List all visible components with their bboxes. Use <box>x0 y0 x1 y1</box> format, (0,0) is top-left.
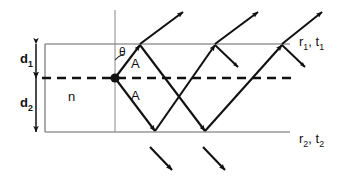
ray-internal-up-1 <box>155 45 215 131</box>
ray-exit-below-1 <box>150 147 172 170</box>
label-amplitude-upper: A <box>131 57 140 70</box>
ray-source-down-right <box>115 78 155 131</box>
figure-canvas: d1 d2 n θ A A r1, t1 r2, t2 <box>0 0 343 178</box>
label-top-interface-coefficients: r1, t1 <box>299 35 324 51</box>
source-point-dot <box>110 73 119 82</box>
label-bottom-interface-coefficients: r2, t2 <box>299 132 324 148</box>
label-d1: d1 <box>20 52 33 68</box>
label-d2: d2 <box>20 96 33 112</box>
label-amplitude-lower: A <box>131 89 140 102</box>
ray-transmitted-up-1 <box>140 12 183 44</box>
ray-reflected-down-1 <box>215 45 238 67</box>
label-theta-angle: θ <box>119 46 126 58</box>
label-refractive-index: n <box>68 90 75 103</box>
ray-exit-below-2 <box>203 147 225 170</box>
ray-internal-up-2 <box>205 45 282 131</box>
ray-diagram-svg <box>0 0 343 178</box>
ray-internal-down-1 <box>140 45 205 131</box>
ray-transmitted-up-2 <box>215 12 258 44</box>
